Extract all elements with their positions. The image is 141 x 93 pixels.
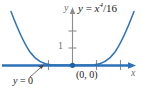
origin-point-dot — [70, 63, 75, 68]
curve-equation-equals: = — [83, 2, 95, 14]
y-tick-label-1: 1 — [58, 41, 63, 51]
curve-equation-label: y = x4/16 — [78, 3, 117, 14]
y-axis-arrowhead — [70, 7, 75, 14]
tangent-label-value: 0 — [28, 75, 33, 86]
graph-figure: y x y = x4/16 1 (0, 0) y = 0 — [0, 0, 141, 93]
tangent-label-equals: = — [17, 75, 28, 86]
curve-equation-denominator: /16 — [103, 2, 117, 14]
x-axis-label: x — [131, 68, 135, 78]
tangent-line-label: y = 0 — [13, 76, 33, 86]
y-axis-label: y — [64, 3, 68, 13]
origin-coordinate-label: (0, 0) — [76, 70, 98, 80]
